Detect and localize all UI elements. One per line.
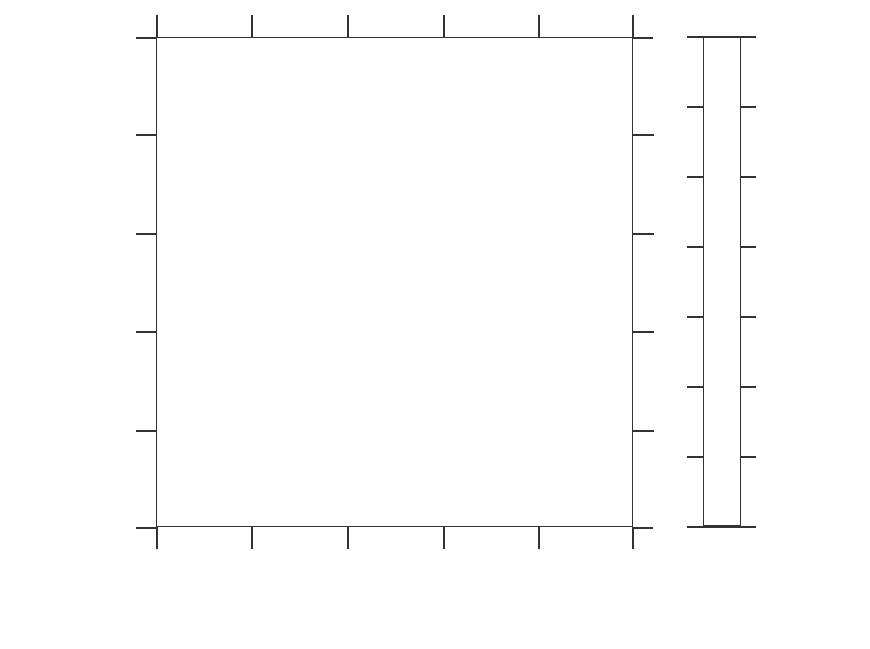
left-tick: [136, 430, 156, 432]
colorbar-tick: [687, 456, 703, 458]
top-tick: [251, 15, 253, 37]
left-tick: [136, 37, 156, 39]
colorbar-tick: [741, 316, 756, 318]
right-tick: [633, 331, 654, 333]
bottom-tick: [443, 527, 445, 549]
top-tick: [347, 15, 349, 37]
colorbar-tick: [687, 106, 703, 108]
bottom-tick: [347, 527, 349, 549]
colorbar-tick: [687, 316, 703, 318]
colorbar-tick: [741, 246, 756, 248]
right-tick: [633, 233, 654, 235]
bottom-tick: [538, 527, 540, 549]
top-tick: [156, 15, 158, 37]
colorbar-tick: [687, 526, 756, 528]
right-tick: [633, 134, 654, 136]
colorbar-tick: [741, 456, 756, 458]
bottom-tick: [632, 527, 634, 549]
irradiance-heatmap: [165, 46, 624, 518]
top-tick: [443, 15, 445, 37]
colorbar-tick: [687, 36, 756, 38]
top-tick: [632, 15, 634, 37]
right-tick: [633, 430, 654, 432]
bottom-tick: [156, 527, 158, 549]
left-tick: [136, 233, 156, 235]
left-tick: [136, 527, 156, 529]
colorbar-tick: [687, 246, 703, 248]
colorbar: [703, 36, 741, 526]
colorbar-tick: [741, 386, 756, 388]
right-tick: [633, 37, 653, 39]
left-tick: [136, 331, 156, 333]
top-tick: [538, 15, 540, 37]
left-tick: [136, 134, 156, 136]
bottom-tick: [251, 527, 253, 549]
colorbar-tick: [741, 106, 756, 108]
colorbar-tick: [687, 386, 703, 388]
colorbar-tick: [741, 176, 756, 178]
right-tick: [633, 527, 653, 529]
colorbar-tick: [687, 176, 703, 178]
